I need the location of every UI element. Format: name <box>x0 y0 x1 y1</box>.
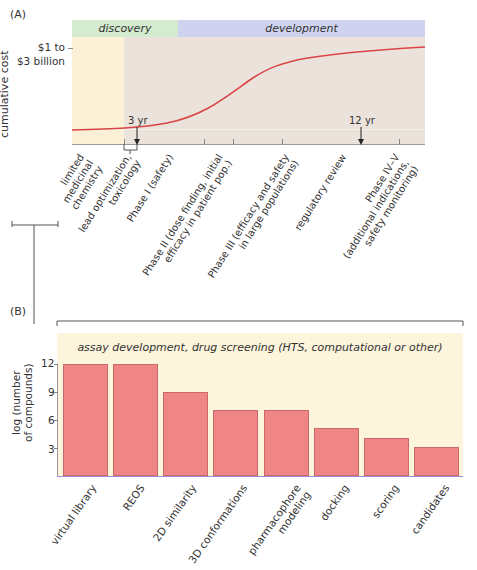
category-label-candidates: candidates <box>409 482 452 536</box>
category-label-pharmacophore-modeling: pharmacophore modeling <box>245 482 312 564</box>
ytick-mark-12 <box>54 364 58 365</box>
x-tick <box>282 139 283 145</box>
twelve-year-arrow-icon <box>357 127 365 145</box>
panel-a-plot: discovery development <box>72 20 425 145</box>
connector-bracket <box>0 220 477 325</box>
bar-pharmacophore-modeling <box>264 410 309 476</box>
category-label-docking: docking <box>317 482 350 523</box>
bar-scoring <box>364 438 409 476</box>
panel-b-label: (B) <box>10 305 26 318</box>
three-year-label: 3 yr <box>128 115 148 126</box>
screening-banner: assay development, drug screening (HTS, … <box>57 341 463 354</box>
bar-3d-conformations <box>213 410 258 476</box>
x-tick <box>204 139 205 145</box>
ytick-3: 3 <box>48 443 55 455</box>
y-axis-label: cumulative cost <box>0 51 11 138</box>
x-tick <box>399 139 400 145</box>
category-label-reos: REOS <box>120 482 146 513</box>
panel-b-frame <box>56 319 465 327</box>
y-top-tick <box>68 48 73 49</box>
bar-candidates <box>414 447 459 476</box>
category-label-virtual-library: virtual library <box>48 482 98 547</box>
y-top-label-1: $1 to <box>38 41 65 53</box>
ytick-12: 12 <box>41 357 54 369</box>
panel-a-label: (A) <box>10 8 26 21</box>
panel-b-x-axis <box>57 476 463 477</box>
x-tick <box>233 139 234 145</box>
category-label-2d-similarity: 2D similarity <box>151 482 199 543</box>
cost-curve <box>72 20 425 145</box>
bar-docking <box>314 428 359 476</box>
y-top-label-2: $3 billion <box>17 55 65 67</box>
bar-virtual-library <box>63 364 108 476</box>
twelve-year-label: 12 yr <box>349 115 375 126</box>
ytick-mark-3 <box>54 448 58 449</box>
ytick-mark-6 <box>54 420 58 421</box>
category-label-3d-conformations: 3D conformations <box>185 482 248 565</box>
bar-2d-similarity <box>163 392 208 476</box>
bar-reos <box>113 364 158 476</box>
ytick-mark-9 <box>54 392 58 393</box>
category-label-scoring: scoring <box>369 482 401 520</box>
three-year-arrow-icon <box>133 127 141 145</box>
panel-b-y-label: log (number of compounds) <box>10 363 34 442</box>
